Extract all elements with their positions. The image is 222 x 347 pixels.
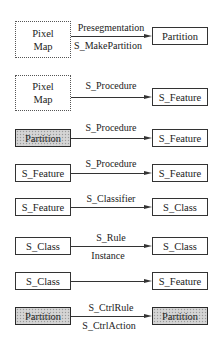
target-node-s-class: S_Class (152, 198, 208, 216)
node-label: S_Feature (159, 167, 202, 180)
edge-label-above: S_Classifier (87, 193, 136, 205)
target-node-s-feature: S_Feature (152, 164, 208, 182)
edge-arrow-row-7 (71, 281, 145, 282)
arrowhead-icon (144, 95, 152, 99)
target-node-s-feature: S_Feature (152, 88, 208, 106)
node-label: S_Class (163, 240, 197, 253)
edge-label-above: S_Procedure (85, 158, 136, 170)
edge-label-above: S_CtrlRule (88, 302, 133, 314)
edge-arrow-row-8 (71, 316, 145, 317)
node-label-line1: Pixel (32, 80, 54, 93)
node-label: Partition (162, 310, 198, 323)
target-node-partition: Partition (152, 27, 208, 45)
target-node-partition: Partition (152, 307, 208, 325)
node-label: S_Feature (159, 275, 202, 288)
node-label: Partition (162, 30, 198, 43)
node-label: S_Feature (159, 91, 202, 104)
node-label-line1: Pixel (32, 27, 54, 40)
source-node-pixel-map-1: Pixel Map (15, 21, 71, 58)
source-node-s-feature: S_Feature (15, 164, 71, 182)
transformation-diagram: Pixel Map Presegmentation S_MakePartitio… (0, 0, 222, 347)
node-label: Partition (25, 132, 61, 145)
arrowhead-icon (144, 136, 152, 140)
edge-label-above: S_Procedure (85, 80, 136, 92)
node-label: S_Feature (22, 167, 65, 180)
source-node-partition: Partition (15, 307, 71, 325)
node-label: S_Class (26, 275, 60, 288)
node-label-line2: Map (33, 93, 52, 106)
arrowhead-icon (144, 205, 152, 209)
edge-label-below: S_CtrlAction (82, 320, 135, 332)
source-node-pixel-map-2: Pixel Map (15, 75, 71, 111)
target-node-s-feature: S_Feature (152, 129, 208, 147)
node-label: S_Class (26, 240, 60, 253)
arrowhead-icon (144, 279, 152, 283)
arrowhead-icon (144, 34, 152, 38)
arrowhead-icon (144, 244, 152, 248)
node-label: S_Feature (159, 132, 202, 145)
edge-label-below: S_MakePartition (74, 40, 142, 52)
edge-arrow-row-2 (71, 97, 145, 98)
arrowhead-icon (144, 171, 152, 175)
edge-arrow-row-3 (71, 138, 145, 139)
edge-arrow-row-5 (71, 207, 145, 208)
edge-arrow-row-6 (71, 246, 145, 247)
target-node-s-class: S_Class (152, 237, 208, 255)
edge-label-above: S_Rule (96, 232, 125, 244)
node-label: S_Class (163, 201, 197, 214)
edge-label-below: Instance (91, 250, 124, 262)
source-node-s-feature: S_Feature (15, 198, 71, 216)
node-label: S_Feature (22, 201, 65, 214)
source-node-s-class: S_Class (15, 237, 71, 255)
source-node-s-class: S_Class (15, 272, 71, 290)
edge-label-above: S_Procedure (85, 122, 136, 134)
edge-arrow-row-1 (71, 36, 145, 37)
arrowhead-icon (144, 314, 152, 318)
node-label-line2: Map (33, 40, 52, 53)
target-node-s-feature: S_Feature (152, 272, 208, 290)
node-label: Partition (25, 310, 61, 323)
source-node-partition: Partition (15, 129, 71, 147)
edge-arrow-row-4 (71, 173, 145, 174)
edge-label-above: Presegmentation (78, 22, 145, 34)
